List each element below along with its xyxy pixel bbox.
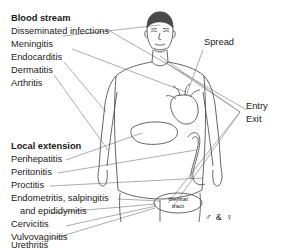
leader-line-exit-lower bbox=[172, 112, 240, 208]
blood-stream-item-meningitis: Meningitis bbox=[11, 40, 53, 49]
sex-symbols: ♂ & ♀ bbox=[205, 213, 234, 222]
eye-left bbox=[151, 31, 157, 32]
local-extension-item-peritonitis: Peritonitis bbox=[11, 168, 52, 177]
eye-right bbox=[163, 31, 169, 32]
eyebrow-left bbox=[151, 29, 157, 30]
trunk-right bbox=[202, 76, 206, 190]
hand-right bbox=[213, 168, 222, 186]
eyebrow-right bbox=[163, 29, 169, 30]
chin bbox=[154, 48, 166, 50]
local-extension-item-perihepatitis: Perihepatitis bbox=[11, 155, 62, 164]
label-exit: Exit bbox=[246, 115, 262, 124]
genital-tract-label-line2: tract bbox=[160, 203, 196, 210]
blood-stream-item-disseminated-infections: Disseminated infections bbox=[11, 27, 109, 36]
diagram-canvas: Blood stream Disseminated infections Men… bbox=[0, 0, 286, 250]
local-extension-item-endometritis-salpingitis: Endometritis, salpingitis bbox=[11, 194, 109, 203]
blood-stream-item-dermatitis: Dermatitis bbox=[11, 66, 53, 75]
local-extension-item-urethritis: Urethritis bbox=[11, 241, 48, 250]
blood-stream-item-arthritis: Arthritis bbox=[11, 79, 43, 88]
local-extension-item-proctitis: Proctitis bbox=[11, 181, 44, 190]
leader-line-dermatitis bbox=[64, 62, 106, 112]
blood-stream-heading: Blood stream bbox=[11, 14, 70, 23]
leader-line-endocarditis bbox=[72, 49, 186, 92]
heart-organ bbox=[171, 95, 199, 124]
leg-left-outer bbox=[120, 193, 121, 222]
leader-line-peritonitis bbox=[58, 150, 196, 173]
hair bbox=[147, 12, 173, 28]
blood-stream-item-endocarditis: Endocarditis bbox=[11, 53, 62, 62]
local-extension-item-and-epididymitis: and epididymitis bbox=[11, 207, 87, 216]
torso-outline bbox=[99, 62, 221, 168]
leader-line-arthritis bbox=[54, 75, 108, 150]
local-extension-item-cervicitis: Cervicitis bbox=[11, 220, 49, 229]
leader-line-proctitis bbox=[50, 178, 203, 186]
leader-line-endometritis bbox=[118, 199, 160, 201]
local-extension-heading: Local extension bbox=[11, 142, 81, 151]
label-spread: Spread bbox=[204, 38, 234, 47]
label-entry: Entry bbox=[246, 102, 268, 111]
leader-line-entry-upper2 bbox=[165, 62, 240, 112]
nose bbox=[159, 33, 162, 40]
trunk-left bbox=[115, 76, 119, 190]
mouth bbox=[155, 44, 165, 45]
liver-organ bbox=[131, 122, 178, 144]
